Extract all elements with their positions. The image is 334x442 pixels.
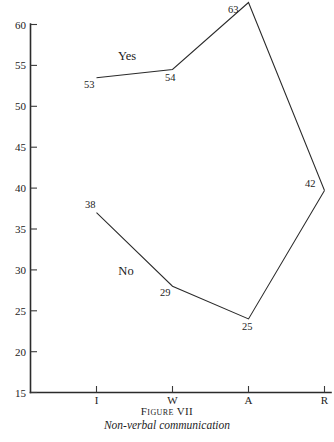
point-label-no-a: 25 — [242, 321, 253, 332]
y-axis-ticks — [31, 25, 38, 393]
point-label-no-w: 29 — [160, 287, 171, 298]
y-axis-tick-labels: 60 55 50 45 40 35 30 25 20 15 — [15, 19, 27, 399]
point-label-r-42: 42 — [305, 178, 316, 189]
y-tick-label-15: 15 — [15, 387, 27, 399]
series-line-yes — [97, 3, 325, 191]
y-tick-label-45: 45 — [15, 141, 27, 153]
y-tick-label-60: 60 — [15, 19, 27, 31]
line-chart: 60 55 50 45 40 35 30 25 20 15 I W A R — [0, 0, 334, 442]
point-label-yes-a: 63 — [228, 4, 239, 15]
x-axis-ticks — [97, 386, 325, 393]
point-label-no-i: 38 — [85, 199, 96, 210]
series-label-yes: Yes — [118, 49, 136, 63]
y-tick-label-35: 35 — [15, 223, 27, 235]
series-label-no: No — [118, 264, 133, 278]
y-tick-label-50: 50 — [15, 100, 27, 112]
y-tick-label-30: 30 — [15, 264, 27, 276]
caption-title: Non-verbal communication — [0, 419, 334, 432]
series-line-no — [97, 191, 325, 319]
y-tick-label-40: 40 — [15, 182, 27, 194]
caption-figure-number: Figure VII — [0, 405, 334, 418]
point-label-yes-i: 53 — [84, 79, 95, 90]
series-annotations: Yes No — [118, 49, 136, 278]
figure-container: 60 55 50 45 40 35 30 25 20 15 I W A R — [0, 0, 334, 442]
y-tick-label-25: 25 — [15, 305, 27, 317]
figure-caption: Figure VII Non-verbal communication — [0, 405, 334, 432]
y-tick-label-55: 55 — [15, 59, 27, 71]
y-tick-label-20: 20 — [15, 346, 27, 358]
point-label-yes-w: 54 — [165, 72, 176, 83]
